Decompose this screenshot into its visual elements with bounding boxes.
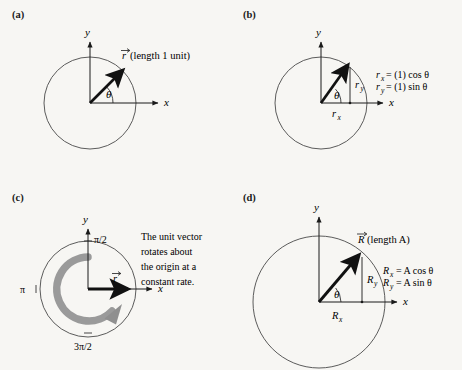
theta-label: θ (106, 88, 112, 100)
vector-r-symbol: r (113, 273, 118, 284)
angle-label-3pi-over-2: 3π/2 (74, 341, 92, 352)
vector-R-length-text: (length A) (367, 234, 410, 246)
equation-Ry-subscript: y (389, 282, 394, 291)
component-Ry-symbol: R (366, 274, 374, 285)
component-Rx-label: R x (331, 310, 343, 324)
vector-r-symbol: r (122, 50, 127, 61)
caption-line-2: rotates about (141, 246, 193, 257)
vector-r-label: r (112, 272, 121, 284)
component-foot-dot (349, 102, 352, 105)
equation-ry-lhs: r (376, 81, 380, 92)
panel-b: (b) x y θ r (231, 0, 462, 185)
vector-r-label: r (length 1 unit) (121, 49, 191, 62)
caption-rotation: The unit vector rotates about the origin… (141, 231, 203, 287)
equation-ry-rhs: = (1) sin θ (386, 81, 427, 93)
component-rx-subscript: x (337, 113, 342, 122)
x-axis-label: x (402, 295, 408, 307)
equation-rx-rhs: = (1) cos θ (386, 69, 429, 81)
angle-label-pi-over-2: π/2 (94, 234, 107, 245)
component-ry-label: r y (355, 79, 365, 93)
panel-c-diagram: x y π/2 π 3π/2 r The unit vector rotates… (0, 185, 231, 370)
vector-r-length-text: (length 1 unit) (130, 50, 191, 62)
x-axis-label: x (388, 96, 394, 108)
y-axis-label: y (82, 213, 88, 225)
y-axis-label: y (313, 201, 319, 213)
panel-b-diagram: x y θ r y r x r x = (1) cos θ r y = (1 (231, 0, 462, 185)
vector-R-symbol: R (357, 234, 365, 245)
angle-label-pi: π (20, 284, 25, 295)
caption-line-4: constant rate. (141, 276, 194, 287)
x-axis-label: x (163, 96, 169, 108)
panel-a: (a) x y θ r (0, 0, 231, 185)
rotation-arrow-icon (57, 257, 122, 325)
component-rx-label: r x (332, 108, 342, 122)
figure-unit-circle-vectors: (a) x y θ r (0, 0, 462, 370)
equation-Ry-rhs: = A sin θ (396, 277, 432, 288)
equation-Rx-subscript: x (389, 270, 394, 279)
equation-Ry: R y = A sin θ (382, 277, 432, 291)
caption-line-1: The unit vector (141, 231, 203, 242)
vector-R-label: R (length A) (357, 232, 410, 246)
theta-label: θ (334, 288, 340, 300)
component-ry-subscript: y (360, 84, 365, 93)
component-rx-symbol: r (332, 108, 337, 119)
component-Rx-symbol: R (331, 310, 339, 321)
equation-rx-lhs: r (376, 69, 380, 80)
theta-label: θ (334, 89, 340, 101)
y-axis-label: y (84, 26, 90, 38)
equation-Rx-rhs: = A cos θ (396, 265, 434, 276)
component-Ry-label: R y (366, 274, 378, 288)
equation-ry: r y = (1) sin θ (376, 81, 427, 95)
panel-a-diagram: x y θ r (length 1 unit) (0, 0, 231, 185)
caption-line-3: the origin at a (141, 261, 197, 272)
component-ry-symbol: r (355, 79, 360, 90)
equation-rx-subscript: x (380, 74, 385, 83)
component-Ry-subscript: y (373, 279, 378, 288)
y-axis-label: y (315, 26, 321, 38)
equation-Ry-lhs: R (382, 277, 389, 288)
component-foot-dot (361, 301, 364, 304)
equation-Rx-lhs: R (382, 265, 389, 276)
equation-ry-subscript: y (380, 86, 385, 95)
component-Rx-subscript: x (338, 315, 343, 324)
panel-c: (c) (0, 185, 231, 370)
panel-d-diagram: x y θ R y R x R (length A) R x (231, 185, 462, 370)
panel-d: (d) x y θ R (231, 185, 462, 370)
